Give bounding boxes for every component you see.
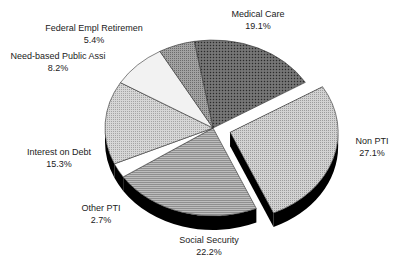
label-need-based: Need-based Public Assi8.2%: [10, 50, 105, 74]
label-medical-care: Medical Care19.1%: [231, 8, 284, 32]
label-federal-empl: Federal Empl Retiremen5.4%: [45, 22, 143, 46]
pie-body: [105, 40, 338, 230]
label-interest-on-debt: Interest on Debt15.3%: [27, 146, 91, 170]
label-other-pti: Other PTI2.7%: [81, 202, 120, 226]
label-social-security: Social Security22.2%: [179, 234, 239, 258]
label-non-pti: Non PTI27.1%: [355, 135, 388, 159]
